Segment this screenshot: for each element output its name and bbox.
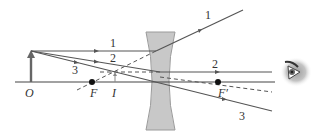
ray-2-label-left: 2 [110,51,116,65]
object-arrow [27,50,35,82]
object-label: O [25,86,34,100]
ray-2-label-right: 2 [212,57,218,71]
focal-point-left [89,79,95,85]
focal-left-label: F [89,86,98,100]
focal-point-right [215,79,221,85]
ray-1-extension [77,51,156,90]
ray-3-label-left: 3 [72,63,78,77]
ray-1 [31,10,243,53]
eye-icon [280,57,312,87]
ray-3-label-right: 3 [239,109,245,123]
ray-1-label-right: 1 [205,8,211,22]
ray-diagram: O I F F′ 1 1 2 2 3 3 [0,0,322,139]
image-arrow [113,72,117,82]
image-label: I [111,86,117,100]
ray-2-to-focal [160,77,272,92]
ray-1-label-left: 1 [110,36,116,50]
focal-right-label: F′ [217,86,228,100]
